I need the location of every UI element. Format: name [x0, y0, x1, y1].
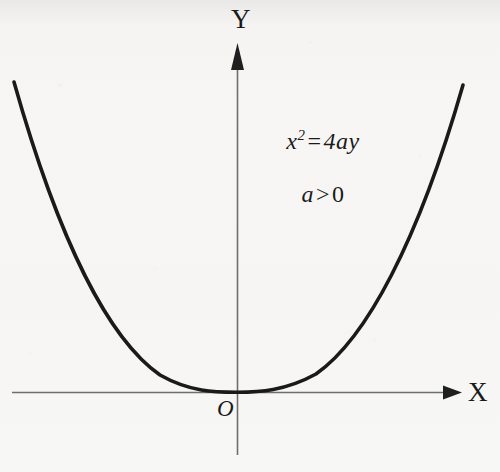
equation-right-side: 4ay	[323, 128, 359, 154]
plot-canvas	[0, 0, 500, 472]
condition-label: a>0	[248, 181, 398, 208]
parabola-figure: Y X O x2=4ay a>0	[0, 0, 500, 472]
y-axis-label: Y	[231, 6, 251, 33]
equation-operator: =	[305, 128, 323, 154]
x-axis-arrow-icon	[443, 386, 462, 400]
y-axis-arrow-icon	[231, 43, 244, 70]
equation-variable: x	[286, 128, 297, 154]
origin-label: O	[217, 397, 234, 420]
condition-variable: a	[301, 181, 314, 207]
x-axis-label: X	[468, 379, 488, 406]
condition-value: 0	[332, 181, 345, 207]
condition-operator: >	[314, 181, 332, 207]
equation-label: x2=4ay	[248, 128, 398, 155]
equation-annotation-block: x2=4ay a>0	[248, 128, 398, 208]
